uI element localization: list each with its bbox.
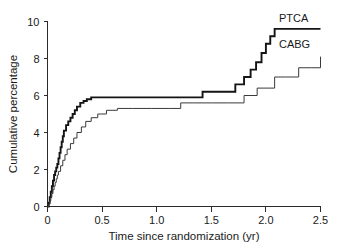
x-tick-label: 2.0 [258, 214, 273, 226]
x-tick-label: 0.5 [94, 214, 109, 226]
x-tick-label: 0 [44, 214, 50, 226]
x-axis-ticks [48, 207, 321, 212]
y-tick-label: 0 [33, 201, 39, 213]
y-axis-ticks [44, 22, 48, 207]
clipped-header-text-right: ss [327, 0, 334, 2]
x-axis-title: Time since randomization (yr) [108, 230, 259, 242]
series-line-ptca [48, 29, 321, 207]
clipped-header-text-left: ssssss ss sssss ssssss ss ssss [6, 0, 115, 2]
y-tick-label: 4 [33, 127, 39, 139]
figure-container: ssssss ss sssss ssssss ss ssss ss 024681… [0, 0, 338, 251]
y-axis-tick-labels: 0246810 [27, 16, 39, 213]
y-tick-label: 2 [33, 164, 39, 176]
cumulative-incidence-chart: 0246810 00.51.01.52.02.5 Cumulative perc… [0, 0, 338, 251]
y-tick-label: 10 [27, 16, 39, 28]
x-axis-tick-labels: 00.51.01.52.02.5 [44, 214, 328, 226]
y-axis-title: Cumulative percentage [7, 55, 19, 173]
x-tick-label: 2.5 [313, 214, 328, 226]
series-line-cabg [48, 57, 321, 207]
x-tick-label: 1.5 [204, 214, 219, 226]
y-tick-label: 8 [33, 53, 39, 65]
y-tick-label: 6 [33, 90, 39, 102]
series-label-cabg: CABG [279, 38, 310, 50]
series-label-ptca: PTCA [279, 12, 309, 24]
x-tick-label: 1.0 [149, 214, 164, 226]
